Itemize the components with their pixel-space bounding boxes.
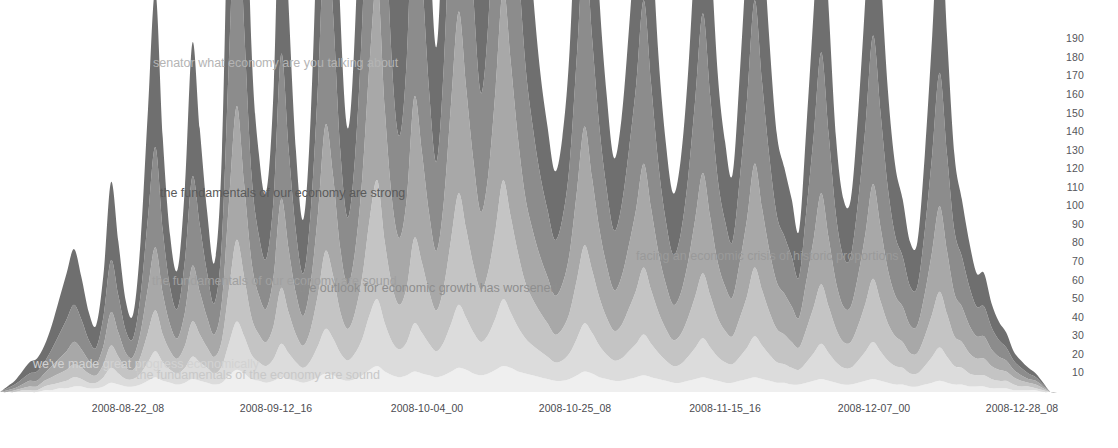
y-axis-tick: 90	[1072, 218, 1084, 230]
x-axis-tick: 2008-10-25_08	[539, 402, 612, 414]
y-axis-tick: 10	[1072, 366, 1084, 378]
x-axis-tick: 2008-12-07_00	[838, 402, 911, 414]
x-axis-tick: 2008-10-04_00	[391, 402, 464, 414]
y-axis-tick: 180	[1066, 51, 1084, 63]
y-axis-tick: 140	[1066, 125, 1084, 137]
x-axis-tick: 2008-12-28_08	[986, 402, 1059, 414]
y-axis-tick: 40	[1072, 311, 1084, 323]
y-axis-tick: 190	[1066, 32, 1084, 44]
y-axis-tick: 100	[1066, 199, 1084, 211]
themeriver-chart: 2008-08-22_082008-09-12_162008-10-04_002…	[0, 0, 1118, 448]
y-axis-tick: 60	[1072, 274, 1084, 286]
x-axis-tick: 2008-11-15_16	[689, 402, 761, 414]
y-axis-tick: 150	[1066, 107, 1084, 119]
y-axis-tick: 160	[1066, 88, 1084, 100]
x-axis: 2008-08-22_082008-09-12_162008-10-04_002…	[0, 402, 1058, 422]
x-axis-tick: 2008-08-22_08	[92, 402, 165, 414]
y-axis-tick: 80	[1072, 236, 1084, 248]
stream-layers-canvas	[0, 0, 1058, 400]
y-axis-tick: 120	[1066, 162, 1084, 174]
y-axis-tick: 130	[1066, 144, 1084, 156]
y-axis-tick: 170	[1066, 69, 1084, 81]
x-axis-tick: 2008-09-12_16	[240, 402, 313, 414]
y-axis: 1901801701601501401301201101009080706050…	[1058, 0, 1102, 448]
y-axis-tick: 30	[1072, 329, 1084, 341]
stream-layer-group	[0, 0, 1058, 393]
y-axis-tick: 50	[1072, 292, 1084, 304]
y-axis-tick: 70	[1072, 255, 1084, 267]
y-axis-tick: 110	[1067, 181, 1084, 193]
y-axis-tick: 20	[1072, 348, 1084, 360]
